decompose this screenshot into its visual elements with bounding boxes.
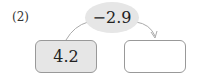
operation-bubble: −2.9 bbox=[85, 2, 139, 33]
answer-box[interactable] bbox=[124, 40, 186, 73]
input-box: 4.2 bbox=[35, 40, 97, 73]
operation-text: −2.9 bbox=[93, 8, 132, 27]
input-value: 4.2 bbox=[53, 47, 78, 66]
